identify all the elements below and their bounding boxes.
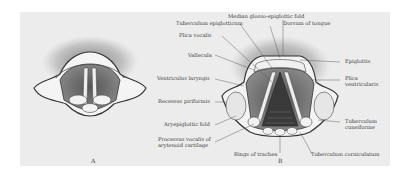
label-tuberculum-corniculatum: Tuberculum corniculatum (311, 152, 379, 157)
label-tuberculum-cuneiforme-line2: cuneiforme (345, 125, 375, 130)
label-epiglottis: Epiglottis (345, 59, 370, 64)
figure-b-larynx (222, 36, 338, 137)
label-plica-ventricularis-line2: ventricularis (345, 82, 378, 87)
caption-b: B (278, 157, 282, 164)
label-processus-vocalis-line2: arytenoid cartilage (158, 143, 208, 148)
label-dorsum-of-tongue: Dorsum of tongue (283, 21, 330, 26)
label-recessus-piriformis: Recessus piriformis (158, 99, 210, 104)
label-tuberculum-epiglotticum: Tuberculum epiglotticum (176, 21, 243, 26)
label-vallecula: Vallecula (188, 53, 212, 58)
label-rings-of-trachea: Rings of trachea (234, 152, 277, 157)
label-median-glosso-epiglottic-fold: Median glosso-epiglottic fold (228, 14, 304, 19)
label-aryepiglottic-fold: Aryepiglottic fold (164, 122, 210, 127)
caption-a: A (91, 157, 95, 164)
figure-a-larynx (34, 36, 146, 116)
label-ventriculus-laryngis: Ventriculus laryngis (157, 76, 210, 81)
label-plica-vocalis: Plica vocalis (179, 33, 212, 38)
